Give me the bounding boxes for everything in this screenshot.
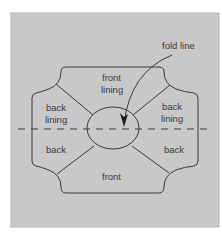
- label-front-lining-2: lining: [101, 84, 123, 95]
- label-back-left: back: [46, 144, 66, 155]
- center-opening: [87, 107, 139, 149]
- label-back-right: back: [164, 144, 184, 155]
- label-back-lining-right-1: back: [162, 101, 182, 112]
- label-back-lining-left-2: lining: [45, 114, 67, 125]
- pattern-diagram: fold line front lining back lining back …: [0, 0, 222, 233]
- label-front-lining-1: front: [102, 72, 121, 83]
- label-fold-line: fold line: [162, 40, 195, 51]
- label-back-lining-left-1: back: [46, 102, 66, 113]
- diagram-canvas: fold line front lining back lining back …: [0, 0, 222, 233]
- label-front: front: [102, 171, 121, 182]
- label-back-lining-right-2: lining: [161, 113, 183, 124]
